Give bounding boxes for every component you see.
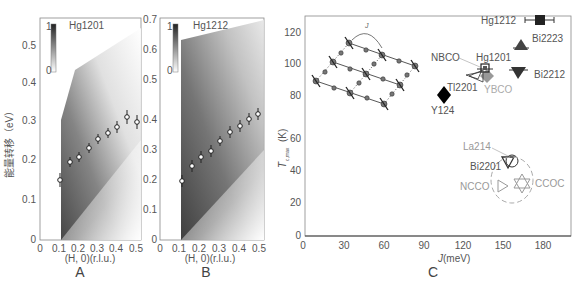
svg-text:120: 120 — [455, 240, 472, 251]
svg-text:0: 0 — [37, 243, 43, 254]
svg-text:0.5: 0.5 — [22, 40, 36, 51]
svg-text:T: T — [277, 161, 288, 168]
svg-text:0.5: 0.5 — [143, 74, 157, 85]
panel-b-label: B — [201, 264, 210, 280]
label-y124: Y124 — [431, 105, 455, 116]
figure-canvas: 1 0 Hg1201 0 0.1 0.2 0.3 0.4 0.5 0 0.1 0… — [0, 0, 584, 282]
svg-text:60: 60 — [378, 240, 390, 251]
svg-text:0.4: 0.4 — [22, 77, 36, 88]
label-bi2212: Bi2212 — [534, 69, 566, 80]
label-la214: La214 — [463, 141, 491, 152]
panel-c-label: C — [428, 264, 438, 280]
panel-a-title: Hg1201 — [69, 20, 104, 31]
panel-b-y-ticks: 0 0.1 0.2 0.3 0.4 0.5 0.6 0.7 — [143, 14, 157, 245]
label-hg1212: Hg1212 — [481, 15, 516, 26]
svg-text:90: 90 — [418, 240, 430, 251]
panel-b-colorbar-max: 1 — [167, 21, 173, 32]
svg-text:30: 30 — [338, 240, 350, 251]
panel-a-colorbar — [51, 24, 56, 72]
svg-text:0.7: 0.7 — [143, 14, 157, 25]
svg-text:100: 100 — [284, 58, 301, 69]
label-hg1201: Hg1201 — [476, 52, 511, 63]
panel-b: 1 0 Hg1212 0 0.1 0.2 0.3 0.4 0.5 0.6 0.7… — [143, 14, 266, 280]
svg-text:0.5: 0.5 — [252, 243, 266, 254]
panel-a-colorbar-min: 0 — [46, 65, 52, 76]
svg-text:0.6: 0.6 — [143, 44, 157, 55]
svg-text:20: 20 — [290, 197, 302, 208]
svg-text:c,max: c,max — [284, 147, 290, 161]
svg-text:0.2: 0.2 — [143, 174, 157, 185]
svg-text:180: 180 — [535, 240, 552, 251]
panel-c-ylabel: T c,max (K) — [277, 129, 290, 168]
panel-c-xlabel: J(meV) — [437, 253, 470, 264]
panel-a-colorbar-max: 1 — [46, 21, 52, 32]
svg-text:0.1: 0.1 — [143, 204, 157, 215]
label-ncco: NCCO — [460, 181, 490, 192]
label-tl2201: Tl2201 — [447, 82, 478, 93]
svg-text:0.5: 0.5 — [129, 243, 143, 254]
panel-a-label: A — [75, 264, 85, 280]
panel-b-colorbar-min: 0 — [167, 65, 173, 76]
svg-text:0.2: 0.2 — [22, 154, 36, 165]
panel-a-xlabel: (H, 0)(r.l.u.) — [65, 253, 116, 264]
svg-text:0.4: 0.4 — [143, 114, 157, 125]
svg-text:0: 0 — [300, 240, 306, 251]
panel-c-x-ticks: 0 30 60 90 120 150 180 — [300, 240, 552, 251]
label-ybco: YBCO — [484, 84, 513, 95]
panel-b-colorbar — [173, 24, 178, 72]
svg-text:J: J — [364, 22, 369, 29]
svg-text:0.1: 0.1 — [22, 194, 36, 205]
svg-text:60: 60 — [290, 133, 302, 144]
svg-text:0: 0 — [30, 234, 36, 245]
panel-c-frame — [305, 16, 571, 236]
svg-text:80: 80 — [290, 90, 302, 101]
svg-text:0.3: 0.3 — [22, 115, 36, 126]
svg-text:40: 40 — [290, 165, 302, 176]
svg-text:0: 0 — [157, 243, 163, 254]
label-ccoc: CCOC — [535, 178, 564, 189]
label-nbco: NBCO — [431, 52, 460, 63]
figure: 1 0 Hg1201 0 0.1 0.2 0.3 0.4 0.5 0 0.1 0… — [0, 0, 584, 282]
label-bi2201: Bi2201 — [470, 161, 502, 172]
panel-c: 0 20 40 60 80 100 120 0 30 60 90 120 150… — [277, 15, 571, 280]
panel-a-ylabel: 能量转移（eV） — [3, 106, 15, 178]
panel-b-title: Hg1212 — [193, 20, 228, 31]
svg-text:120: 120 — [284, 27, 301, 38]
label-bi2223: Bi2223 — [532, 33, 564, 44]
panel-a-y-ticks: 0 0.1 0.2 0.3 0.4 0.5 — [22, 40, 36, 245]
svg-text:(K): (K) — [277, 129, 288, 142]
svg-text:0.3: 0.3 — [143, 144, 157, 155]
panel-b-xlabel: (H, 0)(r.l.u.) — [185, 253, 236, 264]
svg-text:150: 150 — [495, 240, 512, 251]
panel-a: 1 0 Hg1201 0 0.1 0.2 0.3 0.4 0.5 0 0.1 0… — [3, 18, 143, 280]
